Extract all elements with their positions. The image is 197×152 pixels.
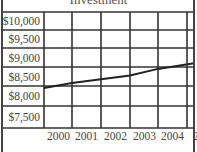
line-chart: $10,000$9,500$9,000$8,500$8,000$7,500 20… [0, 0, 197, 152]
x-axis-labels: 200020012002200320042 [47, 130, 197, 142]
x-tick-label: 2000 [47, 130, 70, 142]
y-tick-label: $9,500 [8, 33, 40, 46]
x-tick-label: 2004 [161, 130, 184, 142]
y-tick-label: $10,000 [3, 15, 41, 28]
x-tick-label: 2003 [133, 130, 156, 142]
x-tick-label: 2002 [104, 130, 127, 142]
y-tick-label: $8,500 [8, 71, 40, 84]
y-tick-label: $8,000 [8, 90, 40, 103]
y-axis-labels: $10,000$9,500$9,000$8,500$8,000$7,500 [3, 15, 41, 124]
x-tick-label: 2001 [75, 130, 98, 142]
y-tick-label: $9,000 [8, 52, 40, 65]
y-tick-label: $7,500 [8, 111, 40, 124]
